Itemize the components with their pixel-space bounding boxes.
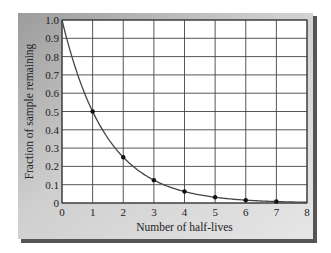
data-point-marker — [182, 189, 186, 193]
data-point-marker — [152, 178, 156, 182]
y-tick-label: 0.2 — [45, 160, 59, 172]
x-tick-label: 6 — [243, 206, 249, 218]
x-tick-label: 0 — [59, 206, 65, 218]
data-point-marker — [213, 195, 217, 199]
y-tick-label: 0.9 — [45, 32, 59, 44]
x-tick-label: 4 — [182, 206, 188, 218]
y-tick-label: 1.0 — [45, 14, 59, 26]
y-tick-label: 0.7 — [45, 69, 59, 81]
y-tick-label: 0.8 — [45, 51, 59, 63]
x-tick-label: 5 — [212, 206, 218, 218]
y-tick-label: 0.3 — [45, 142, 59, 154]
x-tick-label: 8 — [304, 206, 310, 218]
x-axis-title: Number of half-lives — [136, 221, 233, 233]
y-tick-labels: 00.10.20.30.40.50.60.70.80.91.0 — [45, 14, 59, 209]
y-tick-label: 0.1 — [45, 179, 59, 191]
data-point-marker — [121, 155, 125, 159]
x-tick-label: 1 — [90, 206, 96, 218]
y-tick-label: 0.6 — [45, 87, 59, 99]
data-point-marker — [274, 199, 278, 203]
x-tick-label: 3 — [151, 206, 157, 218]
y-tick-label: 0.4 — [45, 124, 59, 136]
data-point-marker — [244, 198, 248, 202]
x-tick-label: 2 — [121, 206, 127, 218]
half-life-chart: 00.10.20.30.40.50.60.70.80.91.0 01234567… — [0, 0, 331, 253]
data-point-marker — [90, 109, 94, 113]
y-axis-title: Fraction of sample remaining — [23, 43, 36, 179]
chart-canvas: 00.10.20.30.40.50.60.70.80.91.0 01234567… — [0, 0, 331, 253]
y-tick-label: 0.5 — [45, 106, 59, 118]
x-tick-label: 7 — [274, 206, 280, 218]
